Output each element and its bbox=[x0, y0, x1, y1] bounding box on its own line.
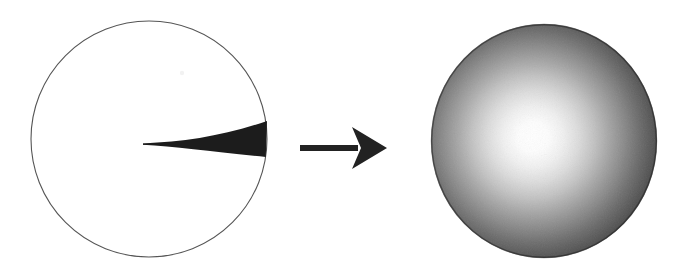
wedge-tip-hairline bbox=[143, 144, 163, 145]
figure-canvas bbox=[0, 0, 690, 277]
arrow-shaft bbox=[300, 145, 358, 151]
scan-speck-icon bbox=[180, 71, 184, 75]
figure-root: Left: outline circle containing a narrow… bbox=[0, 0, 690, 277]
